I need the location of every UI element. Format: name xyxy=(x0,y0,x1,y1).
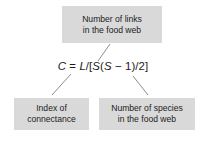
annotation-box-index-of-connectance: Index of connectance xyxy=(14,98,89,130)
equation-minus-one: − 1 xyxy=(112,60,132,72)
equation: C = L/[S(S − 1)/2] xyxy=(0,60,206,72)
annotation-line: in the food web xyxy=(118,114,176,125)
annotation-line: Index of xyxy=(36,103,67,114)
annotation-line: in the food web xyxy=(83,25,141,36)
annotation-line: Number of links xyxy=(82,14,142,25)
equation-bracket-close: ] xyxy=(145,60,148,72)
equation-variable-s-second: S xyxy=(104,60,112,72)
annotation-line: Number of species xyxy=(111,103,183,114)
equation-variable-s-first: S xyxy=(92,60,100,72)
equation-equals: = xyxy=(66,60,79,72)
annotation-box-number-of-species: Number of species in the food web xyxy=(99,98,195,130)
connector-species-icon xyxy=(133,76,148,95)
equation-divide-two: /2 xyxy=(135,60,145,72)
connector-links-icon xyxy=(98,44,110,61)
annotation-line: connectance xyxy=(27,114,76,125)
equation-variable-c: C xyxy=(58,60,66,72)
annotation-box-number-of-links: Number of links in the food web xyxy=(62,6,162,43)
connector-connectance-icon xyxy=(52,74,71,95)
food-web-connectance-diagram: Number of links in the food web C = L/[S… xyxy=(0,0,206,147)
